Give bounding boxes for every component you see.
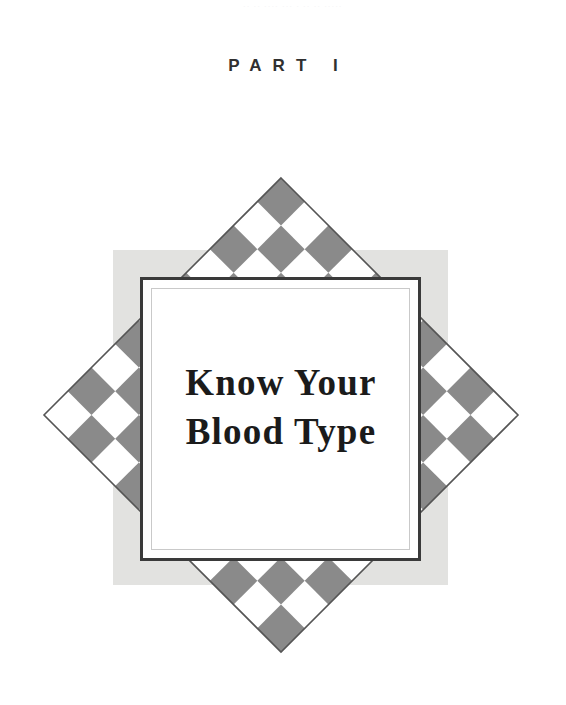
page-title-line-1: Know Your <box>152 358 410 407</box>
page-title: Know Your Blood Type <box>152 358 410 456</box>
emblem-graphic <box>0 0 566 705</box>
checkerboard-diamond-emblem <box>0 0 566 705</box>
page-title-line-2: Blood Type <box>152 407 410 456</box>
book-part-title-page: ·· ·· ···· ··· · ·· ·· ····· PART I <box>0 0 566 705</box>
